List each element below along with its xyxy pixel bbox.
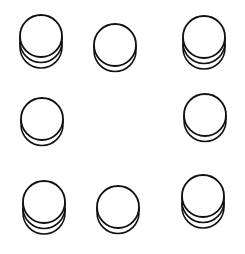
- coin-top-face: [183, 16, 225, 58]
- coin-top-face: [23, 181, 65, 223]
- coin-stacks-diagram: [0, 0, 245, 254]
- coin-top-face: [97, 186, 139, 228]
- coin-top-face: [20, 15, 62, 57]
- coin-stack-middle-left: [21, 98, 63, 146]
- coin-top-face: [21, 98, 63, 140]
- coin-stack-bottom-center: [97, 186, 139, 234]
- coin-stack-bottom-right: [182, 175, 224, 228]
- coin-top-face: [94, 24, 136, 66]
- coin-stack-top-left: [20, 15, 62, 68]
- coin-top-face: [182, 175, 224, 217]
- coin-stack-bottom-left: [23, 181, 65, 234]
- coin-stack-top-right: [183, 16, 225, 69]
- coin-top-face: [184, 94, 226, 136]
- coin-stack-middle-right: [184, 94, 226, 142]
- coin-stack-top-center: [94, 24, 136, 72]
